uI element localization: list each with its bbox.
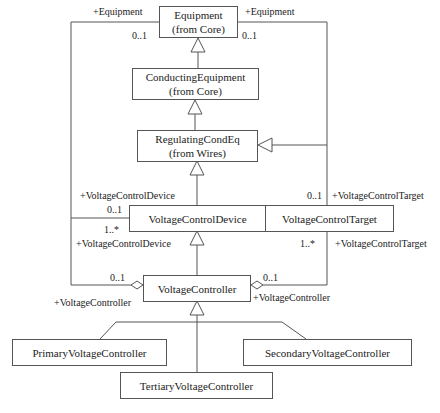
- class-voltage-control-pair: VoltageControlDevice VoltageControlTarge…: [129, 205, 394, 232]
- generalization-arrow-conducting: [188, 100, 202, 114]
- generalization-arrow-equipment: [191, 38, 205, 52]
- generalization-arrow-device: [190, 231, 204, 245]
- multiplicity-label: 1..*: [104, 224, 119, 236]
- multiplicity-label: 0..1: [107, 204, 122, 216]
- role-label: +VoltageControlDevice: [76, 238, 171, 250]
- class-regulating-cond-eq: RegulatingCondEq (from Wires): [137, 130, 258, 162]
- class-equipment: Equipment (from Core): [159, 6, 238, 38]
- class-primary-voltage-controller: PrimaryVoltageController: [12, 339, 167, 366]
- multiplicity-label: 1..*: [300, 238, 315, 250]
- class-conducting-equipment: ConductingEquipment (from Core): [132, 68, 259, 100]
- class-package: (from Core): [172, 22, 225, 36]
- generalization-arrow-regulating: [190, 161, 204, 175]
- multiplicity-label: 0..1: [263, 272, 278, 284]
- role-label: +Equipment: [245, 6, 295, 18]
- class-name: RegulatingCondEq: [155, 132, 239, 146]
- role-label: +Equipment: [93, 6, 143, 18]
- multiplicity-label: 0..1: [110, 272, 125, 284]
- class-secondary-voltage-controller: SecondaryVoltageController: [243, 339, 412, 366]
- class-voltage-controller: VoltageController: [143, 275, 251, 302]
- generalization-arrow-regulating-right: [258, 138, 272, 152]
- role-label: +VoltageController: [253, 292, 330, 304]
- class-name: SecondaryVoltageController: [265, 346, 390, 360]
- class-package: (from Wires): [169, 146, 226, 160]
- class-name: PrimaryVoltageController: [32, 346, 146, 360]
- class-voltage-control-target: VoltageControlTarget: [266, 206, 393, 231]
- role-label: +VoltageController: [54, 297, 131, 309]
- aggregation-diamond-left: [131, 281, 143, 289]
- aggregation-diamond-right: [251, 281, 263, 289]
- role-label: +VoltageControlTarget: [332, 190, 424, 202]
- class-voltage-control-device: VoltageControlDevice: [130, 206, 266, 231]
- class-name: ConductingEquipment: [146, 70, 246, 84]
- class-name: VoltageController: [158, 282, 237, 296]
- multiplicity-label: 0..1: [132, 30, 147, 42]
- role-label: +VoltageControlDevice: [80, 190, 175, 202]
- class-tertiary-voltage-controller: TertiaryVoltageController: [120, 372, 273, 399]
- generalization-arrow-controller: [190, 301, 204, 315]
- multiplicity-label: 0..1: [242, 30, 257, 42]
- class-package: (from Core): [169, 84, 222, 98]
- class-name: Equipment: [174, 8, 222, 22]
- equipment-right-association: [237, 22, 327, 205]
- class-name: TertiaryVoltageController: [140, 379, 253, 393]
- multiplicity-label: 0..1: [307, 190, 322, 202]
- role-label: +VoltageControlTarget: [335, 238, 427, 250]
